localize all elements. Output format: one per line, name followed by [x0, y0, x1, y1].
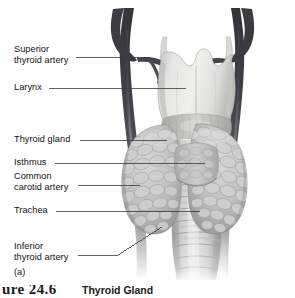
label-thyroid-gland: Thyroid gland — [14, 134, 70, 145]
thyroid-isthmus — [175, 143, 219, 186]
label-superior-thyroid-artery: Superior thyroid artery — [14, 44, 68, 65]
figure-caption-title: Thyroid Gland — [82, 285, 153, 296]
label-isthmus: Isthmus — [14, 157, 47, 168]
figure-caption-number: ure 24.6 — [2, 285, 57, 298]
figure-container: Superior thyroid artery Larynx Thyroid g… — [0, 0, 295, 298]
figure-caption: ure 24.6 Thyroid Gland — [0, 285, 295, 298]
label-inferior-thyroid-artery: Inferior thyroid artery — [14, 241, 68, 262]
label-common-carotid-artery: Common carotid artery — [14, 171, 68, 192]
label-trachea: Trachea — [14, 205, 48, 216]
label-larynx: Larynx — [14, 82, 42, 93]
panel-letter: (a) — [14, 267, 25, 277]
